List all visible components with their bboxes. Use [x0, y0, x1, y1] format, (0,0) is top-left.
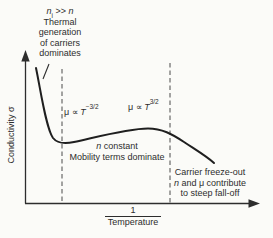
fraction-numerator: 1	[105, 205, 161, 216]
much-greater-than-sign: >>	[53, 6, 69, 16]
x-axis-label: 1 Temperature	[105, 205, 161, 228]
freeze-out-line-2: n and μ contribute	[168, 178, 252, 189]
symbol-T: T	[144, 102, 150, 112]
x-axis-arrowhead	[249, 199, 261, 207]
thermal-generation-annotation: ni >> n Thermal generation of carriers d…	[18, 6, 102, 59]
thermal-line-2: generation	[18, 27, 102, 38]
exponent-three-halves: 3/2	[150, 98, 159, 105]
annotation-leader-slash	[43, 64, 49, 79]
symbol-T: T	[80, 107, 86, 117]
exponent-minus-three-halves: −3/2	[86, 103, 99, 110]
y-axis-label: Conductivity σ	[6, 100, 18, 170]
extrinsic-region-annotation: n constant Mobility terms dominate	[55, 141, 179, 162]
formula-ni-much-greater-n: ni >> n	[18, 6, 102, 17]
carrier-freeze-out-annotation: Carrier freeze-out n and μ contribute to…	[168, 167, 252, 199]
subscript-i: i	[52, 12, 53, 19]
thermal-line-3: of carriers	[18, 38, 102, 49]
mu-proportional-prefix: μ ∝	[64, 107, 80, 117]
mobility-law-right-label: μ ∝ T3/2	[128, 102, 159, 113]
conductivity-vs-temperature-diagram: Conductivity σ ni >> n Thermal generatio…	[0, 0, 273, 238]
freeze-out-line-3: to steep fall-off	[168, 188, 252, 199]
fraction-denominator: Temperature	[105, 216, 161, 228]
thermal-line-4: dominates	[18, 48, 102, 59]
mobility-law-left-label: μ ∝ T−3/2	[64, 107, 99, 118]
thermal-line-1: Thermal	[18, 17, 102, 28]
mu-contribute-text: and μ contribute	[179, 178, 246, 188]
n-constant-line: n constant	[55, 141, 179, 152]
mu-proportional-prefix: μ ∝	[128, 102, 144, 112]
freeze-out-line-1: Carrier freeze-out	[168, 167, 252, 178]
symbol-n-intrinsic: n	[47, 6, 52, 16]
symbol-n: n	[68, 6, 73, 16]
constant-text: constant	[101, 141, 138, 151]
mobility-dominates-line: Mobility terms dominate	[55, 152, 179, 163]
